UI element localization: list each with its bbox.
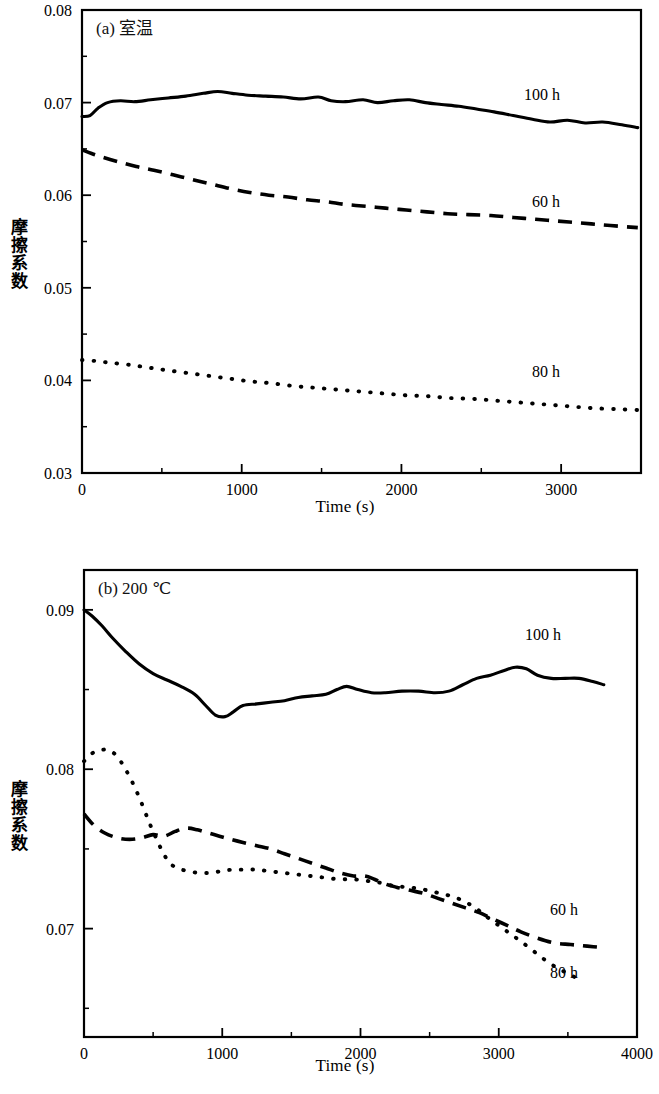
panel-b-x-axis-label: Time (s) xyxy=(230,1056,460,1076)
series-curve-60-h xyxy=(82,150,638,228)
y-tick-label: 0.03 xyxy=(44,465,72,482)
series-annotation-100h: 100 h xyxy=(524,86,560,103)
x-tick-label: 1000 xyxy=(226,481,258,498)
x-tick-label: 3000 xyxy=(545,481,577,498)
chart-panel-a: 01000200030000.030.040.050.060.070.08(a)… xyxy=(0,0,659,540)
chart-panel-b: 010002000300040000.070.080.09(b) 200 ℃10… xyxy=(0,548,659,1094)
x-tick-label: 2000 xyxy=(385,481,417,498)
y-tick-label: 0.07 xyxy=(46,921,74,938)
series-annotation-60h: 60 h xyxy=(550,901,578,918)
panel-b-y-axis-label: 摩擦系数 xyxy=(6,780,31,852)
plot-a-canvas: 01000200030000.030.040.050.060.070.08(a)… xyxy=(0,0,659,540)
panel-a-y-axis-label: 摩擦系数 xyxy=(6,218,31,290)
x-tick-label: 3000 xyxy=(483,1045,515,1062)
y-tick-label: 0.05 xyxy=(44,280,72,297)
series-annotation-80h: 80 h xyxy=(532,363,560,380)
y-tick-label: 0.06 xyxy=(44,187,72,204)
series-annotation-100h: 100 h xyxy=(525,626,561,643)
x-tick-label: 0 xyxy=(80,1045,88,1062)
plot-b-canvas: 010002000300040000.070.080.09(b) 200 ℃10… xyxy=(0,548,659,1094)
series-curve-80-h xyxy=(84,749,579,979)
series-annotation-80h: 80 h xyxy=(550,964,578,981)
panel-tag-label: (a) 室温 xyxy=(96,19,153,38)
y-tick-label: 0.08 xyxy=(46,761,74,778)
y-tick-label: 0.09 xyxy=(46,602,74,619)
y-tick-label: 0.04 xyxy=(44,372,72,389)
x-tick-label: 4000 xyxy=(621,1045,653,1062)
y-tick-label: 0.08 xyxy=(44,2,72,19)
panel-tag-label: (b) 200 ℃ xyxy=(98,579,171,598)
series-annotation-60h: 60 h xyxy=(532,193,560,210)
figure-friction-coefficient-vs-time: 01000200030000.030.040.050.060.070.08(a)… xyxy=(0,0,659,1094)
y-tick-label: 0.07 xyxy=(44,95,72,112)
x-tick-label: 0 xyxy=(78,481,86,498)
panel-a-x-axis-label: Time (s) xyxy=(230,497,460,517)
